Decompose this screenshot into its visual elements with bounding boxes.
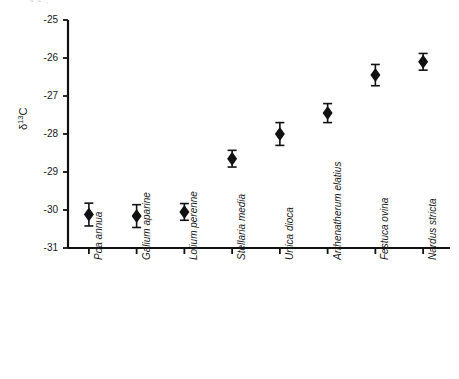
plot-area (0, 0, 459, 379)
diamond-marker (227, 152, 237, 166)
x-tick-label: Galium aparine (141, 192, 152, 260)
diamond-marker (323, 106, 333, 120)
x-tick-label: Nardus stricta (427, 198, 438, 260)
y-tick-label: -28 (28, 129, 58, 139)
x-tick-label: Arrhenatherum elatius (332, 162, 343, 260)
diamond-marker (370, 68, 380, 82)
x-tick-label: Stellaria media (236, 194, 247, 260)
data-point (227, 150, 237, 167)
y-tick-label: -25 (28, 15, 58, 25)
y-tick-label: -26 (28, 53, 58, 63)
y-tick-label: -30 (28, 205, 58, 215)
x-tick-label: Poa annua (93, 212, 104, 260)
y-tick-label: -29 (28, 167, 58, 177)
diamond-marker (275, 127, 285, 141)
y-tick-label: -31 (28, 243, 58, 253)
x-tick-label: Festuca ovina (379, 198, 390, 260)
data-point (370, 64, 380, 85)
data-point (275, 123, 285, 146)
y-tick-label: -27 (28, 91, 58, 101)
diamond-marker (418, 55, 428, 69)
data-point (323, 104, 333, 123)
axes-group (68, 20, 450, 248)
chart-figure: ᵈ ᵉ ˒ δ13C -25-26-27-28-29-30-31 Poa ann… (0, 0, 459, 379)
x-tick-label: Urtica dioca (284, 207, 295, 260)
data-point (418, 53, 428, 70)
data-series-group (84, 53, 428, 227)
x-tick-label: Lolium perenne (188, 191, 199, 260)
